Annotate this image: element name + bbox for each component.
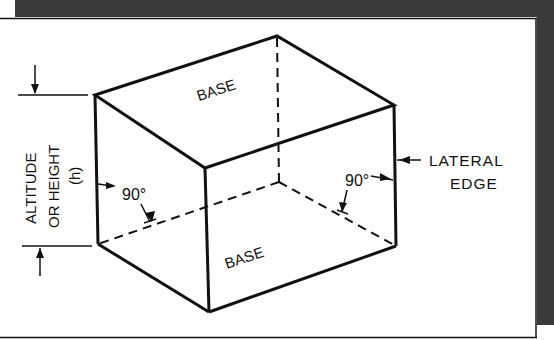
angle-right-label: 90° [345, 172, 369, 189]
frame-shadow-right [537, 0, 554, 325]
altitude-arrow-up-icon [36, 248, 44, 258]
altitude-label-line2: OR HEIGHT [45, 145, 62, 228]
altitude-label-line1: ALTITUDE [22, 153, 39, 224]
prism-diagram: BASE BASE ALTITUDE OR HEIGHT (h) 90° [0, 0, 554, 340]
bottom-base-label: BASE [223, 243, 266, 272]
angle-left-arrow-icon [106, 182, 116, 189]
lateral-edge-label-line1: LATERAL [429, 152, 504, 169]
top-base-label: BASE [194, 76, 237, 105]
lateral-edge-label-line2: EDGE [450, 175, 498, 192]
frame-shadow-top [15, 0, 554, 17]
prism-diagram-svg: BASE BASE ALTITUDE OR HEIGHT (h) 90° [0, 0, 554, 340]
altitude-arrow-down-icon [31, 84, 39, 94]
lateral-edge-arrow-icon [399, 156, 410, 164]
altitude-label-line3: (h) [66, 167, 83, 185]
hidden-edges [98, 38, 396, 246]
angle-left-label: 90° [122, 186, 146, 203]
